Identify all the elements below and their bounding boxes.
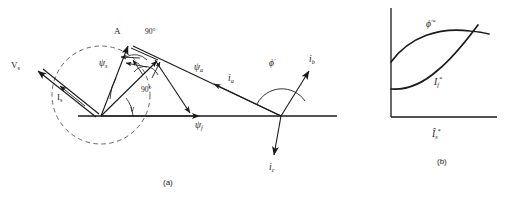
vector-is (60, 86, 85, 106)
arc-psi-s (110, 78, 116, 99)
arc-phi-prime (257, 89, 305, 104)
vector-i-b (281, 71, 309, 116)
label-vertex-a: A (114, 26, 121, 36)
vector-i-c (274, 116, 281, 155)
label-nu: ν (130, 104, 135, 114)
panel-b: ϕ′* If* Îs* (b) (391, 8, 497, 166)
label-is: Is (57, 92, 63, 103)
label-psi-f: ψf (195, 120, 204, 131)
panel-a: Vs Is A 90° 90° ψs ν ψa ψf ia ϕ′ ib ic (… (11, 26, 337, 187)
label-psi-s: ψs (99, 58, 108, 69)
figure-svg: Vs Is A 90° 90° ψs ν ψa ψf ia ϕ′ ib ic (… (0, 0, 514, 198)
label-x-axis-is-hat-star: Îs* (431, 127, 442, 140)
figure-container: Vs Is A 90° 90° ψs ν ψa ψf ia ϕ′ ib ic (… (0, 0, 514, 198)
label-vs: Vs (11, 60, 21, 71)
arrow-node-up-left (133, 60, 143, 75)
label-i-a: ia (228, 73, 234, 84)
label-curve-phi-prime-star: ϕ′* (426, 18, 436, 29)
label-phi-prime: ϕ′ (269, 57, 276, 68)
vector-i-a (214, 84, 281, 116)
label-i-c: ic (269, 162, 275, 173)
label-90-lower: 90° (141, 85, 152, 94)
label-90-upper: 90° (145, 27, 156, 36)
vector-vs (38, 71, 96, 117)
label-i-b: ib (309, 54, 315, 65)
vector-vs-second-line (43, 69, 99, 114)
label-curve-if-star: If* (433, 75, 443, 88)
vector-node-to-axis (155, 60, 190, 113)
caption-panel-b: (b) (437, 157, 447, 166)
curve-phi-prime-star (391, 30, 489, 62)
caption-panel-a: (a) (163, 178, 173, 187)
label-psi-a: ψa (194, 62, 203, 73)
